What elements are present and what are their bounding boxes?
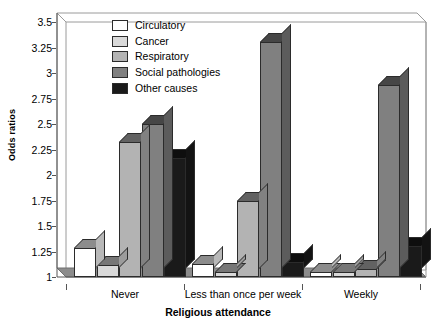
bar-front-face	[355, 269, 377, 277]
bar	[192, 255, 214, 277]
legend-item: Respiratory	[112, 49, 220, 65]
bar-front-face	[215, 272, 237, 277]
x-category-label: Weekly	[281, 288, 436, 300]
bar-side-face	[141, 124, 150, 268]
bar-front-face	[74, 248, 96, 277]
bar-side-face	[186, 140, 195, 268]
legend-item: Cancer	[112, 34, 220, 50]
bar	[74, 239, 96, 277]
legend-swatch-icon	[112, 51, 128, 62]
bar	[310, 263, 332, 277]
x-tick-mark	[302, 284, 303, 290]
legend-swatch-icon	[112, 36, 128, 47]
legend-label: Circulatory	[135, 20, 185, 31]
legend-label: Social pathologies	[135, 67, 220, 78]
bar-side-face	[400, 67, 409, 268]
legend-item: Social pathologies	[112, 65, 220, 81]
legend-label: Respiratory	[135, 51, 189, 62]
x-tick-mark	[66, 284, 67, 290]
bar-front-face	[378, 85, 400, 277]
bar-chart: 11.251.51.7522.252.52.7533.253.5 Odds ra…	[0, 0, 436, 324]
bar-front-face	[310, 272, 332, 277]
bar-side-face	[422, 228, 431, 268]
bar-front-face	[192, 264, 214, 277]
bar-side-face	[282, 24, 291, 268]
x-tick-mark	[420, 284, 421, 290]
bar-front-face	[333, 272, 355, 277]
legend-item: Other causes	[112, 80, 220, 96]
bar-side-face	[259, 183, 268, 269]
legend-label: Cancer	[135, 36, 169, 47]
bar-side-face	[164, 106, 173, 268]
legend-swatch-icon	[112, 20, 128, 31]
legend-label: Other causes	[135, 83, 197, 94]
legend: CirculatoryCancerRespiratorySocial patho…	[112, 18, 220, 96]
bar-front-face	[97, 265, 119, 277]
bar	[215, 263, 237, 277]
bar	[378, 76, 400, 277]
x-tick-mark	[184, 284, 185, 290]
x-axis-title: Religious attendance	[0, 306, 436, 318]
legend-swatch-icon	[112, 83, 128, 94]
legend-item: Circulatory	[112, 18, 220, 34]
legend-swatch-icon	[112, 67, 128, 78]
